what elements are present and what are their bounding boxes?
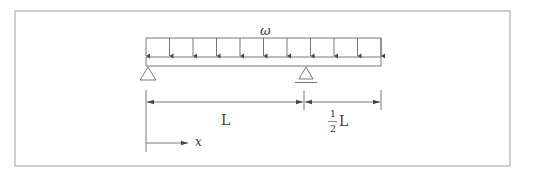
roller-support-icon (295, 67, 317, 83)
beam (146, 57, 381, 66)
fraction-denominator: 2 (329, 124, 337, 134)
span-overhang-label: L (339, 114, 348, 128)
axis-label: x (195, 136, 202, 148)
distributed-load (146, 38, 381, 57)
span-main-label: L (221, 113, 230, 127)
fraction-numerator: 1 (329, 109, 337, 119)
pin-support-icon (140, 67, 156, 80)
load-label: ω (260, 24, 271, 37)
